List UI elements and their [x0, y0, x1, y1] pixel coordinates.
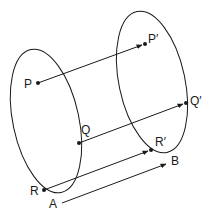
arrow-q-to-q-prime	[79, 104, 183, 143]
label-r: R	[30, 185, 39, 197]
arrow-a-to-b	[62, 164, 166, 203]
label-b: B	[171, 155, 179, 167]
label-p-prime: P′	[148, 33, 158, 45]
point-p	[36, 81, 40, 85]
diagram-svg	[0, 0, 207, 213]
arrow-p-to-p-prime	[38, 45, 142, 83]
arrow-r-to-r-prime	[44, 151, 148, 190]
point-p-prime	[143, 42, 147, 46]
label-p: P	[24, 78, 32, 90]
label-r-prime: R′	[155, 136, 166, 148]
point-q-prime	[184, 101, 188, 105]
label-q-prime: Q′	[190, 95, 202, 107]
point-r	[42, 188, 46, 192]
point-q	[77, 141, 81, 145]
point-r-prime	[149, 148, 153, 152]
left-loop	[0, 43, 93, 200]
label-q: Q	[81, 124, 90, 136]
right-loop	[105, 5, 199, 160]
diagram-canvas: P Q R P′ Q′ R′ A B	[0, 0, 207, 213]
label-a: A	[49, 198, 57, 210]
